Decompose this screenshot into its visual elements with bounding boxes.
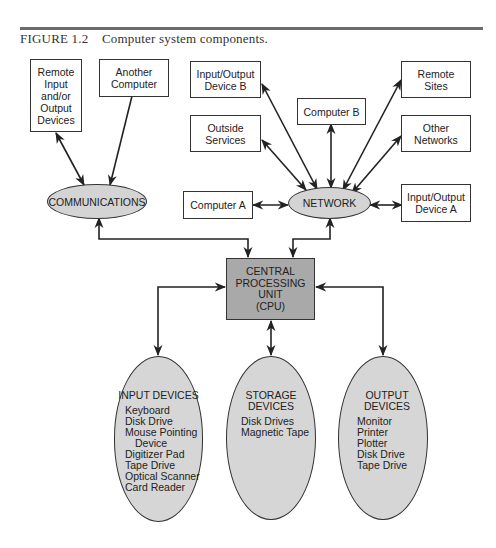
hub-label: NETWORK	[303, 197, 357, 209]
capsule-title: DEVICES	[227, 401, 315, 412]
communications-hub: COMMUNICATIONS	[47, 184, 147, 219]
io-device-b-box: Input/Output Device B	[190, 61, 261, 98]
box-line: Input/Output	[407, 191, 465, 203]
box-line: Devices	[37, 114, 74, 126]
box-line: Computer	[111, 78, 157, 90]
cpu-line: CENTRAL	[227, 266, 314, 278]
box-line: Remote	[418, 68, 455, 80]
other-networks-box: Other Networks	[401, 115, 471, 152]
box-line: Output	[37, 102, 74, 114]
input-devices-capsule: INPUT DEVICES Keyboard Disk Drive Mouse …	[114, 356, 203, 522]
computer-a-box: Computer A	[183, 191, 253, 219]
list-item: Tape Drive	[357, 460, 427, 471]
box-line: Remote	[37, 66, 74, 78]
box-line: Computer B	[303, 106, 359, 118]
hub-label: COMMUNICATIONS	[48, 196, 145, 208]
box-line: Networks	[414, 134, 458, 146]
computer-b-box: Computer B	[297, 98, 366, 125]
box-line: Device B	[197, 80, 255, 92]
input-devices-list: Keyboard Disk Drive Mouse Pointing Devic…	[125, 405, 202, 493]
capsule-title: DEVICES	[347, 401, 427, 412]
cpu-line: UNIT	[227, 289, 314, 301]
outside-services-box: Outside Services	[190, 115, 261, 152]
cpu-box: CENTRAL PROCESSING UNIT (CPU)	[226, 258, 315, 320]
box-line: Device A	[407, 203, 465, 215]
box-line: Other	[414, 122, 458, 134]
box-line: Computer A	[190, 199, 245, 211]
box-line: Another	[111, 66, 157, 78]
cpu-line: (CPU)	[227, 301, 314, 313]
box-line: Services	[205, 134, 245, 146]
capsule-title: INPUT DEVICES	[115, 390, 202, 401]
box-line: Input	[37, 78, 74, 90]
remote-io-devices-box: Remote Input and/or Output Devices	[30, 59, 82, 132]
io-device-a-box: Input/Output Device A	[401, 184, 471, 222]
another-computer-box: Another Computer	[99, 59, 169, 97]
box-line: Outside	[205, 122, 245, 134]
list-item: Magnetic Tape	[241, 427, 315, 438]
list-item: Card Reader	[125, 482, 202, 493]
box-line: and/or	[37, 90, 74, 102]
storage-devices-capsule: STORAGE DEVICES Disk Drives Magnetic Tap…	[226, 356, 316, 520]
remote-sites-box: Remote Sites	[401, 61, 471, 98]
output-devices-list: Monitor Printer Plotter Disk Drive Tape …	[357, 416, 427, 471]
output-devices-capsule: OUTPUT DEVICES Monitor Printer Plotter D…	[338, 356, 428, 520]
storage-devices-list: Disk Drives Magnetic Tape	[241, 416, 315, 438]
box-line: Input/Output	[197, 68, 255, 80]
network-hub: NETWORK	[288, 187, 371, 219]
box-line: Sites	[418, 80, 455, 92]
